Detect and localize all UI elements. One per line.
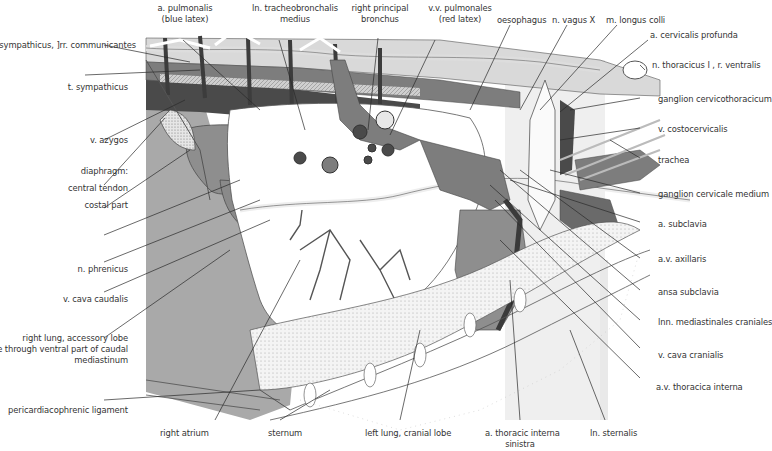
label-ansa-subclavia: ansa subclavia xyxy=(658,287,719,298)
label-line: (red latex) xyxy=(420,14,500,25)
label-left-lung-cranial-lobe: left lung, cranial lobe xyxy=(365,428,451,439)
label-oesophagus: oesophagus xyxy=(497,15,547,26)
label-n-thoracicus: n. thoracicus I , r. ventralis xyxy=(652,60,761,71)
label-a-cervicalis-profunda: a. cervicalis profunda xyxy=(650,30,738,41)
label-m-longus-colli: m. longus colli xyxy=(606,15,665,26)
label-pericardiacophrenic-ligament: pericardiacophrenic ligament xyxy=(8,405,128,416)
label-line: ln. tracheobronchalis xyxy=(240,3,350,14)
label-line: v.v. pulmonales xyxy=(420,3,500,14)
label-ln-tracheobronchalis: ln. tracheobronchalis medius xyxy=(240,3,350,25)
label-diaphragm: diaphragm: xyxy=(81,166,128,177)
label-sternum: sternum xyxy=(268,428,302,439)
label-av-axillaris: a.v. axillaris xyxy=(658,254,706,265)
label-a-thoracic-interna-sinistra: a. thoracic interna sinistra xyxy=(485,428,555,450)
label-line: bronchus xyxy=(340,14,420,25)
label-line: (blue latex) xyxy=(140,14,230,25)
label-line: visible through ventral part of caudal xyxy=(0,344,128,355)
label-line: a. pulmonalis xyxy=(140,3,230,14)
label-n-vagus: n. vagus X xyxy=(552,15,595,26)
label-t-sympathicus-rr: t. sympathicus, ]rr. communicantes xyxy=(0,40,136,51)
label-v-cava-caudalis: v. cava caudalis xyxy=(63,294,128,305)
label-lnn-mediastinales-craniales: lnn. mediastinales craniales xyxy=(658,317,772,328)
label-trachea: trachea xyxy=(658,155,689,166)
label-costal-part: costal part xyxy=(84,200,128,211)
label-a-pulmonalis: a. pulmonalis (blue latex) xyxy=(140,3,230,25)
label-line: a. thoracic interna xyxy=(485,428,555,439)
label-line: mediastinum xyxy=(0,355,128,366)
label-line: sinistra xyxy=(485,439,555,450)
label-v-costocervicalis: v. costocervicalis xyxy=(658,124,728,135)
label-right-lung-accessory-lobe: right lung, accessory lobe visible throu… xyxy=(0,333,128,366)
label-right-atrium: right atrium xyxy=(160,428,209,439)
label-central-tendon: central tendon xyxy=(68,183,128,194)
label-v-cava-cranialis: v. cava cranialis xyxy=(658,350,723,361)
label-t-sympathicus: t. sympathicus xyxy=(68,82,128,93)
label-ganglion-cervicothoracicum: ganglion cervicothoracicum xyxy=(658,94,772,105)
label-v-azygos: v. azygos xyxy=(90,135,128,146)
label-line: right principal xyxy=(340,3,420,14)
label-av-thoracica-interna: a.v. thoracica interna xyxy=(656,382,743,393)
label-n-phrenicus: n. phrenicus xyxy=(78,264,128,275)
label-right-principal-bronchus: right principal bronchus xyxy=(340,3,420,25)
label-line: right lung, accessory lobe xyxy=(0,333,128,344)
label-line: medius xyxy=(240,14,350,25)
label-ln-sternalis: ln. sternalis xyxy=(590,428,637,439)
label-ganglion-cervicale-medium: ganglion cervicale medium xyxy=(658,189,769,200)
label-a-subclavia: a. subclavia xyxy=(658,219,707,230)
label-vv-pulmonales: v.v. pulmonales (red latex) xyxy=(420,3,500,25)
